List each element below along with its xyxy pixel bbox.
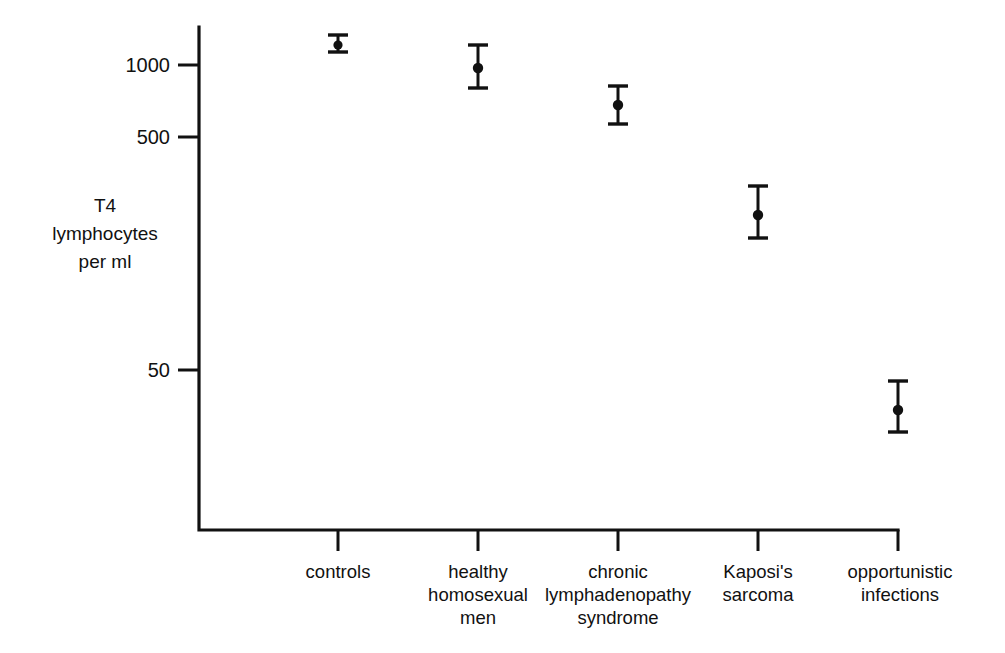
category-label-kaposis-line-2: sarcoma — [723, 584, 795, 605]
data-point-kaposis-sarcoma — [748, 186, 768, 238]
axis-lines — [199, 27, 898, 530]
category-label-healthy-line-1: healthy — [448, 561, 508, 582]
axes-group — [199, 27, 898, 530]
category-label-chronic-line-3: syndrome — [577, 607, 658, 628]
category-label-kaposis-line-1: Kaposi's — [723, 561, 792, 582]
y-tick-label: 1000 — [126, 54, 171, 76]
category-label-chronic-line-2: lymphadenopathy — [545, 584, 692, 605]
category-label-healthy-line-3: men — [460, 607, 496, 628]
category-label-chronic-line-1: chronic — [588, 561, 648, 582]
data-point-marker — [753, 210, 763, 220]
data-series — [328, 35, 908, 432]
y-tick-label: 500 — [137, 126, 170, 148]
y-axis-ticks: 1000 500 50 — [126, 54, 200, 381]
category-label-opportunistic-line-1: opportunistic — [848, 561, 953, 582]
x-axis-category-labels: controls healthy homosexual men chronic … — [306, 561, 953, 628]
category-label-opportunistic-line-2: infections — [861, 584, 939, 605]
y-axis-title: T4 lymphocytes per ml — [52, 195, 158, 272]
y-tick-label: 50 — [148, 359, 170, 381]
data-point-opportunistic-infections — [888, 381, 908, 432]
category-label-healthy-line-2: homosexual — [428, 584, 528, 605]
y-axis-title-line-2: lymphocytes — [52, 223, 158, 244]
t4-lymphocyte-scatter-chart: 1000 500 50 T4 lymphocytes per ml contro… — [0, 0, 1005, 653]
data-point-marker — [333, 40, 342, 49]
data-point-chronic-lymphadenopathy-syndrome — [608, 86, 628, 124]
data-point-marker — [473, 63, 483, 73]
data-point-controls — [328, 35, 348, 52]
data-point-marker — [893, 405, 903, 415]
category-label-controls: controls — [306, 561, 371, 582]
data-point-healthy-homosexual-men — [468, 45, 488, 88]
chart-container: 1000 500 50 T4 lymphocytes per ml contro… — [0, 0, 1005, 653]
x-axis-ticks — [338, 530, 898, 551]
data-point-marker — [613, 100, 623, 110]
y-axis-title-line-3: per ml — [79, 251, 132, 272]
y-axis-title-line-1: T4 — [94, 195, 117, 216]
